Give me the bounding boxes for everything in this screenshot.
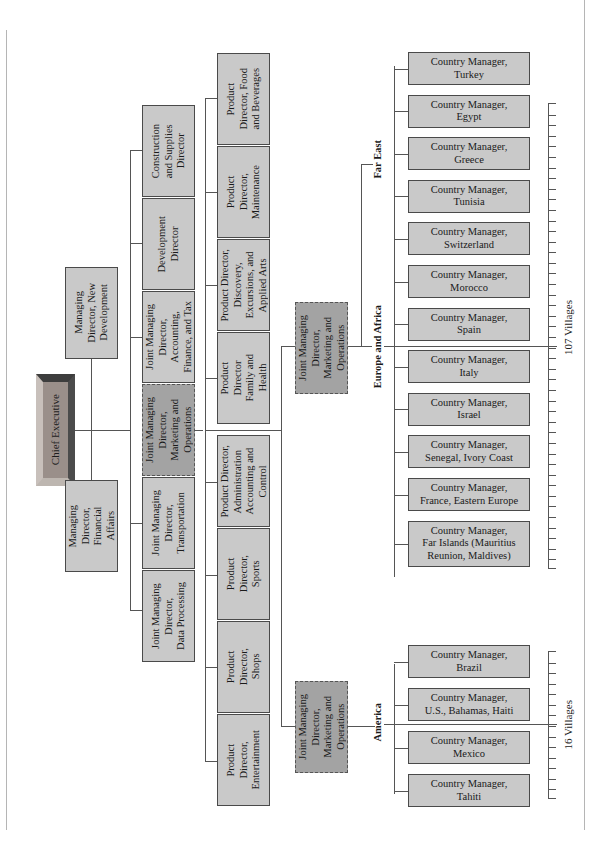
connector-row2-tick-4 <box>130 337 142 338</box>
country-manager-connector <box>394 282 408 283</box>
chief-executive-box: Chief Executive <box>36 374 75 486</box>
country-manager-label: Country Manager, Greece <box>431 141 508 166</box>
country-manager-label: Country Manager, Egypt <box>431 99 508 124</box>
country-manager-label: Country Manager, Israel <box>431 397 508 422</box>
ruler-tick <box>549 189 556 190</box>
ruler-tick <box>549 168 556 169</box>
product-director-entertainment: Product Director, Entertainment <box>217 714 270 806</box>
ruler-tick <box>549 178 556 179</box>
connector-europe-to-ruler <box>384 346 557 347</box>
product-director-food-beverages-label: Product Director, Food and Beverages <box>225 68 263 130</box>
connector-america-out <box>347 726 375 727</box>
country-manager-label: Country Manager, Italy <box>431 354 508 379</box>
product-director-family-health-label: Product Director Family and Health <box>219 354 269 402</box>
jmd-europe-africa-label: Joint Managing Director, Marketing and O… <box>297 315 347 381</box>
product-director-sports-label: Product Director, Sports <box>225 555 263 592</box>
ruler-tick <box>549 263 556 264</box>
country-manager-label: Country Manager, Spain <box>431 312 508 337</box>
ruler-tick <box>549 136 556 137</box>
ruler-tick <box>549 485 556 486</box>
country-manager-label: Country Manager, U.S., Bahamas, Haiti <box>425 692 514 717</box>
ruler-tick <box>549 157 556 158</box>
ruler-tick <box>549 284 556 285</box>
country-manager-box: Country Manager, Senegal, Ivory Coast <box>408 435 530 468</box>
villages-count-europe-africa: 107 Villages <box>562 300 575 355</box>
ruler-tick <box>549 517 556 518</box>
ruler-tick <box>549 538 556 539</box>
ruler-tick <box>549 432 556 433</box>
country-manager-box: Country Manager, Switzerland <box>408 222 530 255</box>
country-manager-connector <box>394 367 408 368</box>
ruler-tick <box>549 694 556 695</box>
country-manager-connector <box>394 495 408 496</box>
product-director-food-beverages: Product Director, Food and Beverages <box>217 53 270 145</box>
country-manager-box: Country Manager, Brazil <box>408 645 530 678</box>
country-manager-box: Country Manager, Tahiti <box>408 774 530 807</box>
ruler-tick <box>549 295 556 296</box>
product-director-administration: Product Director, Administration Account… <box>217 435 270 527</box>
jmd-marketing-operations-europe-africa: Joint Managing Director, Marketing and O… <box>295 302 348 394</box>
connector-row2-tick-2 <box>130 523 142 524</box>
product-director-maintenance: Product Director, Maintenance <box>217 146 270 238</box>
ruler-tick <box>549 475 556 476</box>
connector-prod-tick-7 <box>205 192 217 193</box>
ruler-tick <box>549 684 556 685</box>
connector-prod-tick-6 <box>205 285 217 286</box>
ruler-tick <box>549 768 556 769</box>
country-manager-label: Country Manager, France, Eastern Europe <box>420 482 518 507</box>
ruler-tick <box>549 115 556 116</box>
country-manager-label: Country Manager, Brazil <box>431 649 508 674</box>
ruler-tick <box>549 422 556 423</box>
jmd-transportation: Joint Managing Director, Transportation <box>142 477 195 569</box>
connector-prod-tick-4 <box>205 482 217 483</box>
villages-ruler-america <box>548 651 556 799</box>
villages-ruler-europe-africa <box>548 103 556 569</box>
country-manager-label: Country Manager, Turkey <box>431 56 508 81</box>
ruler-tick <box>549 199 556 200</box>
product-director-sports: Product Director, Sports <box>217 528 270 620</box>
country-manager-label: Country Manager, Senegal, Ivory Coast <box>425 439 513 464</box>
ruler-tick <box>549 464 556 465</box>
managing-director-new-development-label: Managing Director, New Development <box>73 283 111 343</box>
country-manager-connector <box>394 452 408 453</box>
country-manager-connector <box>394 154 408 155</box>
connector-europe-out <box>347 346 372 347</box>
development-director-label: Development Director <box>156 216 181 273</box>
ruler-tick <box>549 506 556 507</box>
ruler-tick <box>549 210 556 211</box>
jmd-accounting-finance-tax: Joint Managing Director, Accounting, Fin… <box>142 291 195 383</box>
construction-supplies-director-label: Construction and Supplies Director <box>150 124 188 178</box>
country-manager-box: Country Manager, Morocco <box>408 265 530 298</box>
connector-europe-countries-vertical <box>394 66 395 577</box>
country-manager-connector <box>394 239 408 240</box>
ruler-tick <box>549 559 556 560</box>
ruler-tick <box>549 358 556 359</box>
ruler-tick <box>549 348 556 349</box>
chief-executive-label: Chief Executive <box>49 394 62 465</box>
country-manager-box: Country Manager, Turkey <box>408 52 530 85</box>
ruler-tick <box>549 326 556 327</box>
jmd-data-processing: Joint Managing Director, Data Processing <box>142 570 195 662</box>
country-manager-box: Country Manager, Israel <box>408 393 530 426</box>
jmd-marketing-operations-central: Joint Managing Director, Marketing and O… <box>142 384 195 476</box>
country-manager-box: Country Manager, Greece <box>408 137 530 170</box>
country-manager-label: Country Manager, Switzerland <box>431 226 508 251</box>
ruler-tick <box>549 726 556 727</box>
ruler-tick <box>549 401 556 402</box>
product-director-discovery-label: Product Director, Discovery, Excursions,… <box>219 249 269 321</box>
connector-fareast-vertical <box>361 164 362 347</box>
country-manager-box: Country Manager, Mexico <box>408 731 530 764</box>
ruler-tick <box>549 758 556 759</box>
country-manager-label: Country Manager, Far Islands (Mauritius … <box>422 525 515 563</box>
jmd-america-label: Joint Managing Director, Marketing and O… <box>297 694 347 760</box>
jmd-accounting-finance-tax-label: Joint Managing Director, Accounting, Fin… <box>144 301 194 373</box>
country-manager-box: Country Manager, Egypt <box>408 95 530 128</box>
villages-count-america: 16 Villages <box>562 700 575 750</box>
connector-regional-vertical <box>281 346 282 726</box>
country-manager-box: Country Manager, U.S., Bahamas, Haiti <box>408 688 530 721</box>
jmd-transportation-label: Joint Managing Director, Transportation <box>150 490 188 556</box>
ruler-tick <box>549 242 556 243</box>
ruler-tick <box>549 496 556 497</box>
ruler-tick <box>549 443 556 444</box>
country-manager-connector <box>394 409 408 410</box>
